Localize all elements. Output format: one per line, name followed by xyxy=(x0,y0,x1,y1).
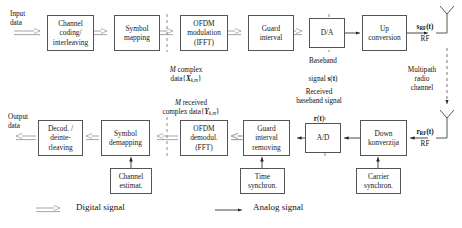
block-da-converter[interactable]: D/A xyxy=(309,18,345,48)
label-rx-rf: RF xyxy=(404,140,446,149)
block-guard-interval-removing-label: Guard interval removing xyxy=(252,124,280,151)
block-ofdm-modulation-label: OFDM modulation (IFFT) xyxy=(187,19,221,46)
block-channel-coding[interactable]: Channel coding/ interleaving xyxy=(47,15,94,51)
label-received-baseband-symbol: r(t) xyxy=(283,106,355,124)
legend-digital-arrow-icon xyxy=(36,208,60,212)
block-ad-converter[interactable]: A/D xyxy=(305,123,341,153)
label-baseband-signal: Baseband xyxy=(288,57,358,66)
block-ofdm-modulation[interactable]: OFDM modulation (IFFT) xyxy=(180,15,228,51)
block-down-conversion[interactable]: Down konverzija xyxy=(360,120,407,156)
legend-digital-signal-label: Digital signal xyxy=(76,202,125,212)
block-time-synchronization[interactable]: Time synchron. xyxy=(240,168,285,194)
block-down-conversion-label: Down konverzija xyxy=(368,129,399,147)
block-carrier-synchronization-label: Carrier synchron. xyxy=(364,172,393,190)
label-output-data: Output data xyxy=(8,113,48,131)
aux-connectors xyxy=(131,157,378,168)
ofdm-transceiver-diagram: Channel coding/ interleaving Symbol mapp… xyxy=(0,0,462,228)
block-channel-estimation[interactable]: Channel estimat. xyxy=(110,168,152,194)
block-carrier-synchronization[interactable]: Carrier synchron. xyxy=(356,168,401,194)
block-ofdm-demodulation-label: OFDM demodul. (FFT) xyxy=(190,124,218,151)
block-channel-estimation-label: Channel estimat. xyxy=(119,172,144,190)
block-up-conversion[interactable]: Up conversion xyxy=(362,15,407,51)
block-guard-interval-label: Guard interval xyxy=(260,24,283,42)
label-input-data: Input data xyxy=(10,10,46,28)
block-symbol-mapping[interactable]: Symbol mapping xyxy=(114,15,160,51)
block-da-converter-label: D/A xyxy=(321,28,334,37)
block-symbol-mapping-label: Symbol mapping xyxy=(124,24,150,42)
label-tx-rf-signal: sRF(t) xyxy=(405,14,445,32)
block-ad-converter-label: A/D xyxy=(317,133,330,142)
block-guard-interval[interactable]: Guard interval xyxy=(248,15,294,51)
label-m-received-data-symbol: complex data{Yk,m} xyxy=(143,99,239,117)
label-tx-rf: RF xyxy=(405,35,445,44)
block-decoder-deinterleaving-label: Decod. / deinte- rleaving xyxy=(48,124,73,151)
block-channel-coding-label: Channel coding/ interleaving xyxy=(53,19,88,46)
label-received-baseband-2: baseband signal xyxy=(283,97,355,106)
label-multipath-channel: Multipath radio channel xyxy=(400,66,444,92)
legend-analog-signal-label: Analog signal xyxy=(253,202,303,212)
label-baseband-signal-symbol: signal s(t) xyxy=(288,66,358,84)
block-ofdm-demodulation[interactable]: OFDM demodul. (FFT) xyxy=(180,120,228,156)
label-m-complex-data-symbol: data{Xk,m} xyxy=(148,66,224,84)
block-symbol-demapping-label: Symbol demapping xyxy=(109,129,142,147)
label-rx-rf-signal: rRF(t) xyxy=(404,119,446,137)
block-up-conversion-label: Up conversion xyxy=(368,24,400,42)
label-received-baseband-1: Received xyxy=(283,88,355,97)
block-symbol-demapping[interactable]: Symbol demapping xyxy=(101,120,150,156)
block-time-synchronization-label: Time synchron. xyxy=(248,172,277,190)
block-guard-interval-removing[interactable]: Guard interval removing xyxy=(243,120,290,156)
